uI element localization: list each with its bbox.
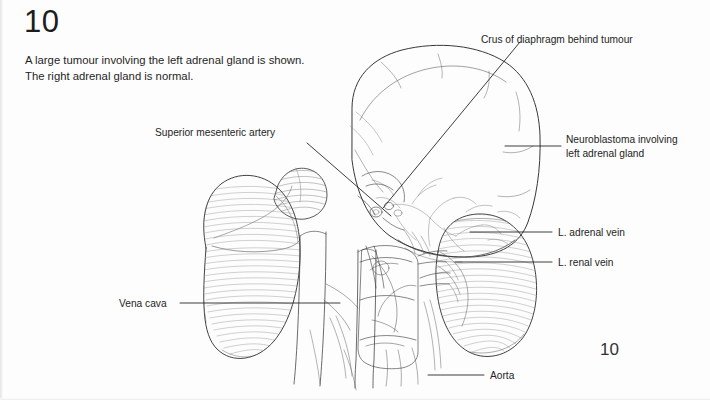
crus-of-diaphragm bbox=[350, 112, 382, 155]
label-vena-cava: Vena cava bbox=[119, 297, 167, 311]
right-adrenal-gland bbox=[273, 168, 327, 219]
ureter bbox=[344, 350, 356, 390]
label-neuroblastoma-line-1: Neuroblastoma involving bbox=[566, 133, 678, 147]
caption-line-1: A large tumour involving the left adrena… bbox=[25, 52, 365, 68]
right-kidney bbox=[198, 175, 301, 358]
left-renal-and-adrenal-veins bbox=[418, 251, 458, 302]
leader-sma bbox=[307, 143, 391, 216]
left-kidney bbox=[434, 214, 540, 357]
label-neuroblastoma: Neuroblastoma involving left adrenal gla… bbox=[566, 133, 678, 161]
superior-mesenteric-artery bbox=[366, 246, 384, 288]
figure-caption: A large tumour involving the left adrena… bbox=[25, 52, 365, 84]
leader-lines bbox=[180, 42, 561, 375]
label-left-adrenal-vein: L. adrenal vein bbox=[558, 226, 625, 240]
label-aorta: Aorta bbox=[490, 369, 514, 383]
label-superior-mesenteric-artery: Superior mesenteric artery bbox=[155, 126, 275, 140]
leader-crus bbox=[383, 42, 520, 208]
scan-edge-left bbox=[0, 0, 3, 400]
page-number: 10 bbox=[600, 340, 619, 360]
abdominal-aorta bbox=[355, 249, 376, 388]
inferior-vena-cava bbox=[294, 231, 358, 386]
lower-retroperitoneal-vessels bbox=[330, 300, 441, 378]
caption-line-2: The right adrenal gland is normal. bbox=[25, 68, 365, 84]
label-neuroblastoma-line-2: left adrenal gland bbox=[566, 147, 678, 161]
label-left-renal-vein: L. renal vein bbox=[558, 256, 614, 270]
label-crus-of-diaphragm: Crus of diaphragm behind tumour bbox=[481, 33, 633, 47]
neuroblastoma-mass bbox=[352, 45, 540, 262]
figure-number: 10 bbox=[24, 6, 59, 37]
figure-page: 10 A large tumour involving the left adr… bbox=[0, 0, 710, 400]
vertebral-column bbox=[358, 246, 418, 387]
